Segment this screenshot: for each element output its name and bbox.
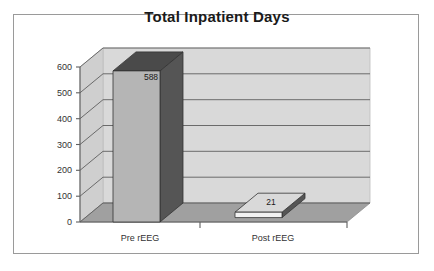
- x-category-label-pre: Pre rEEG: [100, 234, 180, 243]
- bar-value-label-pre: 588: [136, 73, 166, 82]
- chart-title: Total Inpatient Days: [0, 8, 434, 25]
- y-tick-label-500: 500: [38, 89, 72, 98]
- y-tick-label-300: 300: [38, 141, 72, 150]
- y-tick-label-0: 0: [38, 218, 72, 227]
- bar-value-label-post: 21: [258, 198, 284, 207]
- y-tick-label-400: 400: [38, 115, 72, 124]
- y-tick-label-600: 600: [38, 63, 72, 72]
- chart-frame: [13, 14, 419, 254]
- y-tick-label-100: 100: [38, 192, 72, 201]
- x-category-label-post: Post rEEG: [233, 234, 313, 243]
- y-tick-label-200: 200: [38, 166, 72, 175]
